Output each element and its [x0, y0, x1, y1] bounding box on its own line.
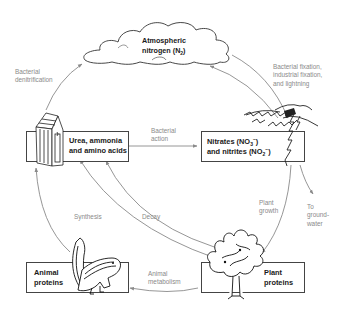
label-fixation: Bacterial fixation, industrial fixation,… [273, 63, 322, 88]
label-denitrification: Bacterial denitrification [15, 68, 53, 85]
nitrogen-cycle-diagram: Atmospheric nitrogen (N2) Urea, ammonia … [0, 0, 349, 313]
label-to-groundwater: To ground- water [307, 203, 329, 228]
label-decay: Decay [142, 213, 160, 221]
label-synthesis: Synthesis [74, 213, 102, 221]
label-plant-growth: Plant growth [259, 199, 278, 216]
label-bacterial-action: Bacterial action [151, 127, 176, 144]
label-animal-metabolism: Animal metabolism [148, 270, 181, 287]
tree-icon [0, 0, 349, 313]
